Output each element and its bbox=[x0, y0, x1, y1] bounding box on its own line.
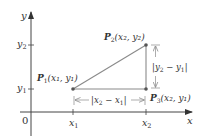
triangle bbox=[73, 45, 146, 89]
point-p1 bbox=[71, 87, 75, 91]
x-axis-label: x bbox=[187, 115, 193, 126]
point-label-p1: P1(x₁, y₁) bbox=[36, 73, 78, 84]
segment-hypotenuse bbox=[73, 45, 146, 89]
point-p3 bbox=[144, 87, 148, 91]
point-label-p3: P3(x₂, y₁) bbox=[149, 93, 191, 104]
tick-label-x2: x2 bbox=[142, 117, 152, 130]
tick-label-y1: y1 bbox=[16, 82, 27, 95]
diagram-svg: x y 0 x1 x2 y1 y2 bbox=[0, 0, 200, 136]
tick-label-y2: y2 bbox=[16, 38, 27, 51]
tick-label-x1: x1 bbox=[69, 117, 79, 130]
horizontal-distance-label: |x2 − x1| bbox=[91, 95, 127, 106]
y-axis-label: y bbox=[20, 10, 27, 21]
origin-label: 0 bbox=[22, 115, 28, 126]
distance-formula-diagram: x y 0 x1 x2 y1 y2 bbox=[0, 0, 200, 136]
point-p2 bbox=[144, 43, 148, 47]
point-label-p2: P2(x₂, y₂) bbox=[103, 32, 145, 43]
vertical-distance-label: |y2 − y1| bbox=[152, 62, 188, 73]
axes bbox=[20, 12, 192, 136]
